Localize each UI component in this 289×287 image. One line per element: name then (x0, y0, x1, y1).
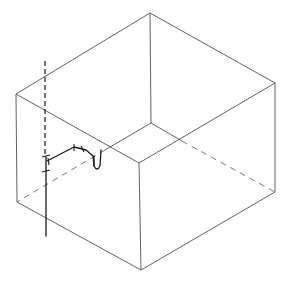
tank-visible-edges (16, 13, 275, 270)
bottom-edge-front-left (17, 202, 141, 270)
pipe-assembly (42, 61, 101, 236)
inner-floor-edge-right (151, 123, 182, 141)
top-edge-front-right (139, 83, 275, 163)
tank-diagram (0, 0, 289, 287)
hidden-floor-edge-left (17, 150, 105, 202)
vertical-edge-back-inner (150, 13, 151, 123)
vertical-edge-front (139, 163, 141, 270)
vertical-edge-left (16, 94, 17, 202)
tank-hidden-edges (17, 141, 275, 202)
hidden-floor-edge-right (182, 141, 275, 192)
inner-floor-edge-left (105, 123, 151, 150)
top-edge-back-left (16, 13, 150, 94)
top-edge-back-right (150, 13, 275, 83)
joint-tick-3 (48, 158, 49, 165)
bottom-edge-front-right (141, 192, 275, 270)
pipe-branch (47, 147, 94, 166)
top-edge-front-left (16, 94, 139, 163)
